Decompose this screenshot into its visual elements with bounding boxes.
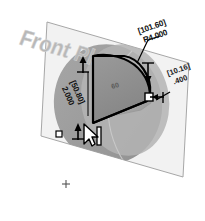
origin-marker [62, 180, 70, 188]
cad-3d-viewport[interactable]: Front Plane 60 [0, 0, 205, 221]
arc-radius-dimension[interactable]: [101.60] R4.000 [137, 18, 171, 46]
selection-square[interactable] [56, 131, 62, 137]
cad-scene[interactable]: Front Plane 60 [0, 0, 205, 221]
